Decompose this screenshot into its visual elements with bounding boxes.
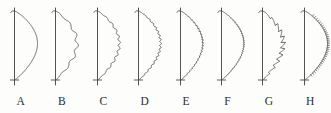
leaf-diagram-b: [41, 0, 82, 92]
leaf-apex-hook: [259, 10, 263, 12]
leaf-label-b: B: [41, 92, 82, 113]
leaf-diagram-g: [248, 0, 289, 92]
leaf-diagram-row: [0, 0, 331, 92]
leaf-diagram-a: [0, 0, 41, 92]
leaf-label-g: G: [248, 92, 289, 113]
leaf-apex-hook: [11, 10, 15, 12]
leaf-diagram-e: [166, 0, 207, 92]
leaf-label-row: ABCDEFGH: [0, 92, 331, 113]
leaf-margin-outline: [180, 11, 203, 80]
leaf-label-f: F: [207, 92, 248, 113]
leaf-margin-outline: [56, 11, 79, 80]
leaf-apex-hook: [301, 10, 305, 12]
leaf-diagram-f: [207, 0, 248, 92]
leaf-label-d: D: [124, 92, 165, 113]
leaf-margin-outline: [15, 11, 38, 80]
leaf-apex-hook: [176, 10, 180, 12]
leaf-margin-outline: [263, 11, 286, 80]
leaf-margin-outline: [221, 11, 244, 80]
leaf-apex-hook: [94, 10, 98, 12]
leaf-label-c: C: [83, 92, 124, 113]
leaf-margin-outline: [139, 11, 162, 80]
leaf-diagram-d: [124, 0, 165, 92]
leaf-apex-hook: [218, 10, 222, 12]
leaf-diagram-h: [290, 0, 331, 92]
leaf-diagram-c: [83, 0, 124, 92]
leaf-margin-figure: ABCDEFGH: [0, 0, 331, 113]
leaf-label-h: H: [290, 92, 331, 113]
leaf-apex-hook: [52, 10, 56, 12]
leaf-label-a: A: [0, 92, 41, 113]
leaf-label-e: E: [166, 92, 207, 113]
leaf-margin-outline: [97, 11, 120, 80]
leaf-apex-hook: [135, 10, 139, 12]
